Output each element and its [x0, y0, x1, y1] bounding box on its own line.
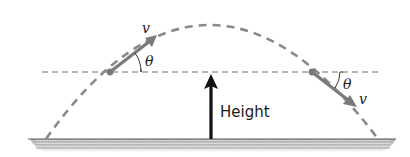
- velocity-label-right: v: [359, 91, 367, 107]
- right-angle-arc: [335, 72, 340, 88]
- left-angle-arc: [135, 53, 141, 72]
- ground: [28, 139, 396, 152]
- velocity-label-left: v: [142, 20, 150, 36]
- height-arrow-icon: [204, 74, 218, 139]
- angle-label-left: θ: [145, 53, 154, 69]
- projectile-diagram: v θ θ v Height: [0, 0, 410, 157]
- angle-label-right: θ: [343, 76, 352, 92]
- height-label: Height: [220, 103, 270, 121]
